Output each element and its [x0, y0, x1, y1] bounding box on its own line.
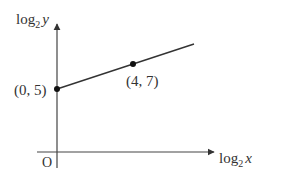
point-0-5	[54, 86, 60, 92]
y-axis-label: log2y	[16, 11, 49, 30]
point-label-0-5: (0, 5)	[14, 82, 47, 99]
diagram: log2y log2x O (0, 5) (4, 7)	[0, 0, 293, 180]
point-4-7	[130, 61, 136, 67]
x-axis-label: log2x	[219, 150, 252, 169]
point-label-4-7: (4, 7)	[126, 73, 159, 90]
origin-label: O	[42, 155, 52, 170]
